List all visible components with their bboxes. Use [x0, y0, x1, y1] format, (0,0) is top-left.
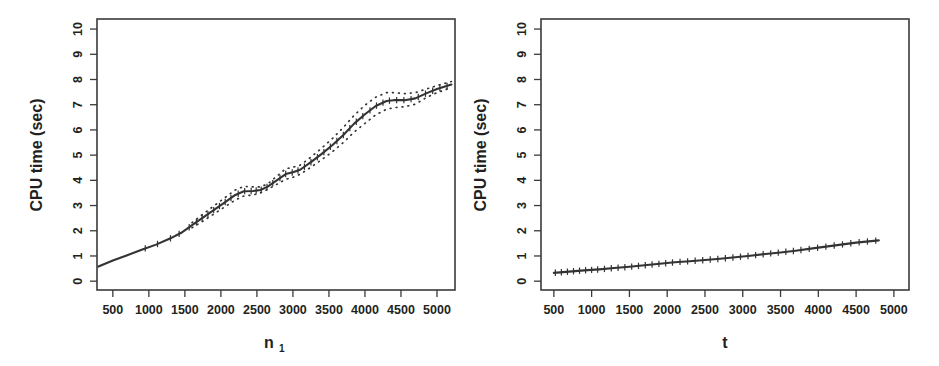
left-x-tick-label: 5000 — [423, 303, 451, 317]
left-x-tick-label: 1500 — [171, 303, 199, 317]
left-x-tick-label: 3000 — [279, 303, 307, 317]
left-y-tick-label: 7 — [71, 101, 85, 108]
right-y-axis-title: CPU time (sec) — [472, 99, 489, 212]
right-y-tick-label: 3 — [515, 202, 529, 209]
right-y-tick-label: 8 — [515, 76, 529, 83]
right-y-tick-label: 0 — [515, 278, 529, 285]
left-fit-curve — [98, 85, 451, 267]
left-y-tick-label: 3 — [71, 202, 85, 209]
left-x-tick-label: 4000 — [351, 303, 379, 317]
left-plot-frame — [97, 19, 455, 290]
right-y-tick-label: 1 — [515, 252, 529, 259]
right-y-tick-label: 4 — [515, 177, 529, 184]
right-y-tick-label: 5 — [515, 152, 529, 159]
right-y-tick-label: 9 — [515, 51, 529, 58]
right-x-tick-label: 1000 — [578, 303, 606, 317]
left-y-tick-label: 5 — [71, 152, 85, 159]
panel-left-n1: CPU time (sec) 012345678910 500100015002… — [0, 0, 469, 366]
right-x-tickmarks — [554, 290, 894, 297]
right-y-tick-label: 6 — [515, 126, 529, 133]
left-x-tick-label: 2000 — [207, 303, 235, 317]
left-x-tick-label: 1000 — [135, 303, 163, 317]
right-y-tick-labels: 012345678910 — [515, 22, 529, 285]
left-y-tick-label: 9 — [71, 51, 85, 58]
right-rug-marks — [555, 237, 875, 275]
right-y-tickmarks — [534, 29, 541, 281]
left-y-axis-title: CPU time (sec) — [28, 99, 45, 212]
left-y-tick-label: 1 — [71, 252, 85, 259]
right-x-tick-label: 5000 — [880, 303, 908, 317]
right-x-tick-label: 4000 — [804, 303, 832, 317]
left-x-tick-label: 500 — [102, 303, 123, 317]
left-x-tickmarks — [113, 290, 437, 297]
right-x-tick-label: 500 — [543, 303, 564, 317]
right-y-tick-label: 2 — [515, 227, 529, 234]
right-y-tick-label: 10 — [515, 22, 529, 36]
left-y-tick-label: 0 — [71, 278, 85, 285]
right-y-tick-label: 7 — [515, 101, 529, 108]
figure-cpu-time-panels: CPU time (sec) 012345678910 500100015002… — [0, 0, 939, 366]
left-y-tick-label: 6 — [71, 126, 85, 133]
left-x-tick-label: 4500 — [387, 303, 415, 317]
right-x-tick-labels: 500100015002000250030003500400045005000 — [543, 303, 907, 317]
left-upper-confidence-band — [192, 82, 451, 223]
left-y-tick-label: 2 — [71, 227, 85, 234]
right-x-tick-label: 2500 — [691, 303, 719, 317]
right-x-axis-title: t — [722, 334, 728, 351]
right-x-tick-label: 2000 — [653, 303, 681, 317]
left-plot-svg: CPU time (sec) 012345678910 500100015002… — [0, 0, 469, 366]
right-plot-svg: CPU time (sec) 012345678910 500100015002… — [469, 0, 939, 366]
left-x-axis-title-subscript: 1 — [279, 343, 285, 354]
right-x-tick-label: 4500 — [842, 303, 870, 317]
left-y-tickmarks — [90, 29, 97, 281]
left-x-axis-title: n — [264, 334, 274, 351]
left-x-tick-label: 3500 — [315, 303, 343, 317]
right-plot-frame — [541, 19, 909, 290]
left-y-tick-label: 8 — [71, 76, 85, 83]
left-y-tick-labels: 012345678910 — [71, 22, 85, 285]
right-fit-curve — [554, 240, 879, 273]
left-y-tick-label: 4 — [71, 177, 85, 184]
right-x-tick-label: 3500 — [767, 303, 795, 317]
left-lower-confidence-band — [192, 88, 451, 228]
left-x-tick-labels: 500100015002000250030003500400045005000 — [102, 303, 451, 317]
panel-right-t: CPU time (sec) 012345678910 500100015002… — [469, 0, 938, 366]
left-x-tick-label: 2500 — [243, 303, 271, 317]
right-x-tick-label: 1500 — [616, 303, 644, 317]
right-x-tick-label: 3000 — [729, 303, 757, 317]
left-y-tick-label: 10 — [71, 22, 85, 36]
